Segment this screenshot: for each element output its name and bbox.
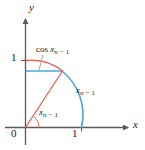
- cosine-arc: [26, 60, 63, 71]
- figure-container: y x 0 1 1 cos xn − 1 xn − 1 xn − 1: [0, 0, 145, 150]
- cosine-label: cos xn − 1: [36, 45, 69, 56]
- angle-label-subscript-op: − 1: [49, 111, 58, 119]
- y-axis-label: y: [29, 2, 34, 13]
- x-axis-label: x: [133, 119, 138, 130]
- radius-line: [26, 71, 63, 128]
- arc-label-subscript-op: − 1: [86, 89, 95, 97]
- cosine-label-subscript-op: − 1: [60, 48, 69, 56]
- arc-length-label: xn − 1: [76, 86, 95, 97]
- angle-label-subscript-var: n: [43, 111, 47, 119]
- origin-label: 0: [11, 128, 17, 139]
- cosine-label-function: cos: [36, 44, 48, 54]
- y-tick-label-one: 1: [11, 52, 17, 63]
- cosine-label-leader: [39, 55, 43, 70]
- angle-arc-marker: [34, 117, 39, 128]
- angle-label: xn − 1: [39, 108, 58, 119]
- arc-label-subscript-var: n: [80, 89, 84, 97]
- cosine-label-subscript-var: n: [54, 48, 58, 56]
- unit-circle-arc: [62, 71, 83, 128]
- x-tick-label-one: 1: [72, 128, 78, 139]
